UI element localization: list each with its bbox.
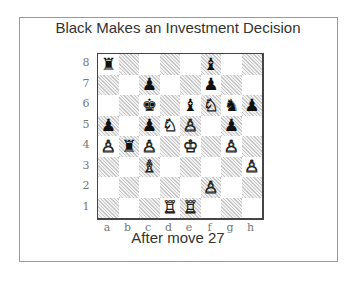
square-h2: [242, 177, 263, 198]
rank-label-4: 4: [80, 138, 92, 151]
square-a2: [98, 177, 119, 198]
white-pawn-icon: ♙: [101, 138, 116, 155]
square-b3: [119, 157, 140, 178]
black-pawn-icon: ♟: [203, 76, 218, 93]
white-pawn-icon: ♙: [142, 138, 157, 155]
square-f8: ♝: [201, 54, 222, 75]
square-g7: [221, 75, 242, 96]
square-c1: [139, 198, 160, 219]
square-d1: ♖: [160, 198, 181, 219]
black-bishop-icon: ♝: [183, 97, 198, 114]
white-pawn-icon: ♙: [224, 138, 239, 155]
square-h6: ♟: [242, 95, 263, 116]
square-a5: ♟: [98, 116, 119, 137]
square-f6: ♘: [201, 95, 222, 116]
diagram-caption: After move 27: [0, 229, 356, 246]
square-f3: [201, 157, 222, 178]
rank-label-6: 6: [80, 97, 92, 110]
square-e6: ♝: [180, 95, 201, 116]
square-a1: [98, 198, 119, 219]
square-b2: [119, 177, 140, 198]
white-knight-icon: ♘: [162, 117, 177, 134]
rank-label-7: 7: [80, 77, 92, 90]
white-rook-icon: ♖: [162, 199, 177, 216]
rank-label-5: 5: [80, 118, 92, 131]
square-g5: ♟: [221, 116, 242, 137]
white-knight-icon: ♘: [203, 97, 218, 114]
black-rook-icon: ♜: [101, 56, 116, 73]
square-h8: [242, 54, 263, 75]
square-b4: ♜: [119, 136, 140, 157]
square-e4: ♔: [180, 136, 201, 157]
square-e1: ♖: [180, 198, 201, 219]
square-a6: [98, 95, 119, 116]
square-g6: ♞: [221, 95, 242, 116]
black-pawn-icon: ♟: [224, 117, 239, 134]
square-h3: ♙: [242, 157, 263, 178]
square-a4: ♙: [98, 136, 119, 157]
square-b7: [119, 75, 140, 96]
square-g1: [221, 198, 242, 219]
square-d8: [160, 54, 181, 75]
square-d6: [160, 95, 181, 116]
square-h1: [242, 198, 263, 219]
square-d2: [160, 177, 181, 198]
square-g3: [221, 157, 242, 178]
square-e3: [180, 157, 201, 178]
rank-label-8: 8: [80, 56, 92, 69]
square-h5: [242, 116, 263, 137]
square-c2: [139, 177, 160, 198]
white-rook-icon: ♖: [183, 199, 198, 216]
square-g2: [221, 177, 242, 198]
square-e8: [180, 54, 201, 75]
rank-label-3: 3: [80, 159, 92, 172]
square-c6: ♚: [139, 95, 160, 116]
white-king-icon: ♔: [183, 138, 198, 155]
black-rook-icon: ♜: [121, 138, 136, 155]
square-c4: ♙: [139, 136, 160, 157]
black-pawn-icon: ♟: [142, 117, 157, 134]
square-a3: [98, 157, 119, 178]
square-e5: ♙: [180, 116, 201, 137]
black-pawn-icon: ♟: [101, 117, 116, 134]
square-b1: [119, 198, 140, 219]
square-b6: [119, 95, 140, 116]
square-d7: [160, 75, 181, 96]
white-pawn-icon: ♙: [203, 179, 218, 196]
square-e7: [180, 75, 201, 96]
square-h7: [242, 75, 263, 96]
black-pawn-icon: ♟: [244, 97, 259, 114]
rank-label-1: 1: [80, 200, 92, 213]
white-bishop-icon: ♗: [142, 158, 157, 175]
square-c3: ♗: [139, 157, 160, 178]
white-pawn-icon: ♙: [244, 158, 259, 175]
black-knight-icon: ♞: [224, 97, 239, 114]
square-f7: ♟: [201, 75, 222, 96]
square-a7: [98, 75, 119, 96]
square-b8: [119, 54, 140, 75]
square-d3: [160, 157, 181, 178]
square-f2: ♙: [201, 177, 222, 198]
white-pawn-icon: ♙: [183, 117, 198, 134]
square-g4: ♙: [221, 136, 242, 157]
black-bishop-icon: ♝: [203, 56, 218, 73]
rank-label-2: 2: [80, 179, 92, 192]
chess-board: ♜♝♟♟♚♝♘♞♟♟♟♘♙♟♙♜♙♔♙♗♙♙♖♖: [97, 53, 264, 220]
diagram-title: Black Makes an Investment Decision: [0, 19, 356, 36]
square-b5: [119, 116, 140, 137]
square-d4: [160, 136, 181, 157]
square-c8: [139, 54, 160, 75]
black-king-icon: ♚: [142, 97, 157, 114]
square-c5: ♟: [139, 116, 160, 137]
square-d5: ♘: [160, 116, 181, 137]
square-c7: ♟: [139, 75, 160, 96]
square-e2: [180, 177, 201, 198]
square-f1: [201, 198, 222, 219]
square-a8: ♜: [98, 54, 119, 75]
square-h4: [242, 136, 263, 157]
square-f4: [201, 136, 222, 157]
square-f5: [201, 116, 222, 137]
black-pawn-icon: ♟: [142, 76, 157, 93]
square-g8: [221, 54, 242, 75]
